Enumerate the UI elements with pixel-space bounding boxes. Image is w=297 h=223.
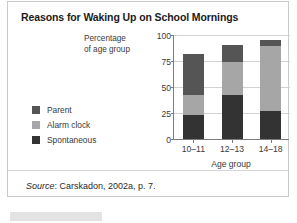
figure-card: Reasons for Waking Up on School Mornings… [7, 1, 289, 197]
page-bottom-bar [10, 212, 102, 221]
legend-label: Spontaneous [47, 135, 96, 145]
legend-swatch-icon [32, 121, 40, 129]
y-tick-label: 100 [157, 31, 171, 41]
y-axis-title: Percentage of age group [84, 33, 156, 55]
bar-segment [183, 95, 204, 115]
source-divider [8, 170, 288, 171]
bar-stack [222, 45, 243, 139]
gridline [174, 35, 290, 36]
y-tick-mark [171, 113, 174, 114]
bar-segment [260, 111, 281, 139]
y-tick-label: 25 [161, 109, 171, 119]
y-tick-label: 0 [166, 135, 171, 145]
bar-stack [183, 54, 204, 139]
legend-item: Alarm clock [32, 117, 132, 132]
source-citation: : Carskadon, 2002a, p. 7. [55, 181, 156, 191]
x-tick-label: 12–13 [212, 140, 252, 154]
figure-title: Reasons for Waking Up on School Mornings [21, 11, 238, 23]
y-axis-title-line-2: of age group [84, 44, 156, 55]
y-tick-mark [171, 35, 174, 36]
legend-swatch-icon [32, 106, 40, 114]
bar-segment [260, 46, 281, 110]
legend-item: Spontaneous [32, 132, 132, 147]
chart-legend: ParentAlarm clockSpontaneous [32, 102, 132, 147]
legend-item: Parent [32, 102, 132, 117]
bar-segment [183, 54, 204, 96]
legend-label: Parent [47, 105, 72, 115]
y-tick-mark [171, 87, 174, 88]
legend-label: Alarm clock [47, 120, 90, 130]
x-axis-title: Age group [173, 159, 289, 169]
source-label: Source [26, 181, 55, 191]
plot-area: 025507510010–1112–1314–18 [173, 36, 289, 140]
x-tick-label: 14–18 [251, 140, 291, 154]
x-tick-label: 10–11 [173, 140, 213, 154]
bar-segment [222, 95, 243, 139]
y-tick-mark [171, 61, 174, 62]
bar-segment [222, 45, 243, 62]
y-axis-title-line-1: Percentage [84, 33, 156, 44]
bar-stack [260, 40, 281, 139]
legend-swatch-icon [32, 136, 40, 144]
bar-segment [222, 62, 243, 95]
y-tick-label: 75 [161, 57, 171, 67]
y-tick-label: 50 [161, 83, 171, 93]
source-note: Source: Carskadon, 2002a, p. 7. [26, 181, 156, 191]
bar-segment [183, 115, 204, 139]
